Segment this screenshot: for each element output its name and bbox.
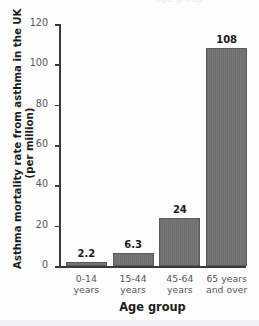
bar [66, 262, 107, 266]
bar [206, 48, 247, 266]
y-axis-tick: 100 [55, 64, 60, 66]
asthma-mortality-bar-chart: age group Asthma mortality rate from ast… [0, 0, 259, 326]
x-axis-category-label-line: and over [200, 285, 253, 296]
y-axis-tick-label: 20 [36, 219, 48, 230]
clipped-title-fragment: age group [155, 0, 255, 6]
bar [159, 218, 200, 266]
bottom-band [0, 320, 259, 326]
y-axis-tick-label: 0 [42, 259, 48, 270]
y-axis-title-line-1: Asthma mortality rate from asthma in the… [12, 8, 23, 269]
y-axis-title-line-2: (per million) [24, 17, 36, 269]
y-axis-tick-label: 40 [36, 178, 48, 189]
y-axis-tick: 60 [55, 145, 60, 147]
y-axis-tick: 120 [55, 24, 60, 26]
y-axis-tick: 40 [55, 185, 60, 187]
x-axis-category-label-line: years [60, 285, 113, 296]
y-axis-tick-label: 100 [30, 57, 48, 68]
x-axis-category-label: 0-14years [60, 274, 113, 296]
plot-area: 020406080100120 2.26.324108 0-14years15-… [59, 24, 246, 266]
y-axis-tick: 80 [55, 105, 60, 107]
x-axis-spine [59, 266, 246, 268]
y-axis-tick-label: 60 [36, 138, 48, 149]
bar-value-label: 2.2 [66, 248, 107, 259]
x-axis-category-label-line: years [153, 285, 206, 296]
x-axis-category-label: 65 yearsand over [200, 274, 253, 296]
y-axis-tick-label: 80 [36, 98, 48, 109]
bar [113, 253, 154, 266]
bar-value-label: 6.3 [113, 239, 154, 250]
x-axis-category-label-line: years [107, 285, 160, 296]
x-axis-category-label: 15-44years [107, 274, 160, 296]
y-axis-tick: 0 [55, 266, 60, 268]
y-axis-title: Asthma mortality rate from asthma in the… [9, 14, 39, 272]
x-axis-title: Age group [59, 300, 246, 314]
bar-value-label: 108 [206, 34, 247, 45]
x-axis-category-label: 45-64years [153, 274, 206, 296]
y-axis-tick: 20 [55, 226, 60, 228]
y-axis-tick-label: 120 [30, 17, 48, 28]
bar-value-label: 24 [159, 204, 200, 215]
